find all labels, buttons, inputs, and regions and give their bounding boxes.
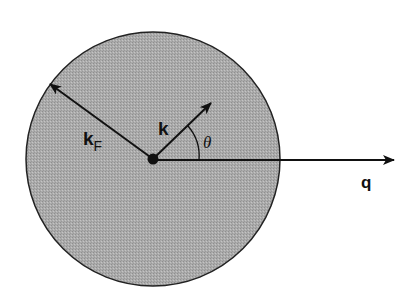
kf-label-subscript: F [94,138,103,154]
theta-label: θ [203,133,211,152]
origin-dot [148,154,159,165]
q-label: q [361,173,371,192]
kf-label-main: k [83,128,94,149]
k-label: k [158,118,169,139]
fermi-sphere-diagram: kF k θ q [0,0,414,302]
